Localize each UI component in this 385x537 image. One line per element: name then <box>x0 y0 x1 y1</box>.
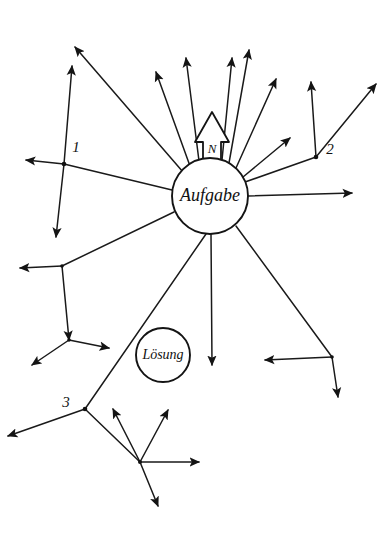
branch-1-up <box>64 66 72 164</box>
branch-3-to-fan <box>85 409 140 462</box>
fan-upright <box>140 410 168 462</box>
branch-1-left <box>26 160 64 164</box>
ray-node2-trunk <box>245 157 316 182</box>
ray-up-left-mid <box>156 72 190 166</box>
joint-2 <box>314 155 319 160</box>
joint-fan <box>138 460 142 464</box>
branch-2-upright <box>316 84 376 157</box>
radial-task-diagram: N Aufgabe Lösung 123 <box>0 0 385 537</box>
branch-l2-downleft <box>32 340 69 365</box>
joint-l1 <box>60 264 64 268</box>
joint-r1 <box>330 355 334 359</box>
branch-1-down <box>56 164 64 237</box>
hollow-arrow-label: N <box>207 141 218 156</box>
joint-1 <box>62 162 67 167</box>
branch-r1-left <box>265 357 332 360</box>
ray-left-lower <box>62 212 174 266</box>
branch-3-downleft <box>8 409 85 436</box>
diagram-canvas: N Aufgabe Lösung 123 <box>0 0 385 537</box>
ray-down <box>211 234 212 365</box>
ray-left-flat <box>64 164 172 190</box>
ray-down-right <box>236 226 332 357</box>
branch-2-up <box>311 82 316 157</box>
joint-l2 <box>67 338 71 342</box>
fan-branches <box>113 409 199 506</box>
label-3: 3 <box>61 394 70 410</box>
branch-l2-right <box>69 340 109 348</box>
branch-l1-down <box>62 266 69 340</box>
branch-r1-down <box>332 357 338 397</box>
center-node-aufgabe[interactable]: Aufgabe <box>172 158 248 234</box>
solution-node-label: Lösung <box>141 347 183 362</box>
center-node-label: Aufgabe <box>179 185 240 205</box>
label-1: 1 <box>72 139 80 155</box>
ray-up-left-near <box>186 58 199 161</box>
ray-up-left-far <box>75 47 183 172</box>
joint-3 <box>83 407 88 412</box>
ray-right-flat <box>248 193 352 196</box>
fan-downright <box>140 462 158 506</box>
solution-node-loesung[interactable]: Lösung <box>136 328 190 382</box>
branch-l1-left <box>20 266 62 268</box>
label-2: 2 <box>326 141 334 157</box>
ray-right-upper <box>243 138 290 177</box>
ray-down-left-to-3 <box>85 234 206 409</box>
ray-up-right-near <box>222 58 232 160</box>
fan-up <box>113 409 140 462</box>
